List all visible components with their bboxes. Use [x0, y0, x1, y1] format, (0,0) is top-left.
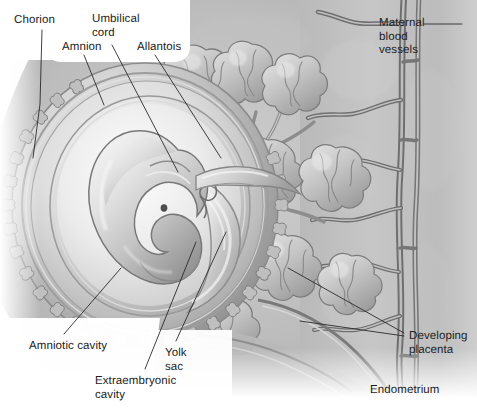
label-maternal-blood-vessels-line-2: blood	[379, 31, 425, 45]
label-developing-placenta-line-1: Developing	[409, 330, 468, 344]
label-endometrium-line-1: Endometrium	[370, 384, 440, 398]
label-amniotic-cavity-line-1: Amniotic cavity	[29, 340, 107, 354]
label-maternal-blood-vessels-line-1: Maternal	[379, 17, 425, 31]
label-umbilical-cord-line-1: Umbilical	[92, 13, 140, 27]
label-amnion-line-1: Amnion	[62, 41, 102, 55]
label-extraembryonic-cavity-line-2: cavity	[95, 389, 176, 403]
label-allantois: Allantois	[137, 41, 181, 55]
label-yolk-sac: Yolksac	[165, 347, 187, 374]
label-maternal-blood-vessels-line-3: vessels	[379, 44, 425, 58]
label-allantois-line-1: Allantois	[137, 41, 181, 55]
label-yolk-sac-line-1: Yolk	[165, 347, 187, 361]
anatomical-illustration	[0, 0, 477, 416]
embryo-eye	[161, 205, 167, 212]
label-umbilical-cord: Umbilicalcord	[92, 13, 140, 40]
label-umbilical-cord-line-2: cord	[92, 27, 140, 41]
label-extraembryonic-cavity: Extraembryoniccavity	[95, 375, 176, 402]
embryo-placenta-figure: ChorionUmbilicalcordAmnionAllantoisMater…	[0, 0, 477, 416]
label-maternal-blood-vessels: Maternalbloodvessels	[379, 17, 425, 58]
label-developing-placenta-line-2: placenta	[409, 344, 468, 358]
label-extraembryonic-cavity-line-1: Extraembryonic	[95, 375, 176, 389]
label-amnion: Amnion	[62, 41, 102, 55]
label-developing-placenta: Developingplacenta	[409, 330, 468, 357]
label-yolk-sac-line-2: sac	[165, 361, 187, 375]
label-endometrium: Endometrium	[370, 384, 440, 398]
label-amniotic-cavity: Amniotic cavity	[29, 340, 107, 354]
label-chorion-line-1: Chorion	[14, 14, 55, 28]
label-chorion: Chorion	[14, 14, 55, 28]
